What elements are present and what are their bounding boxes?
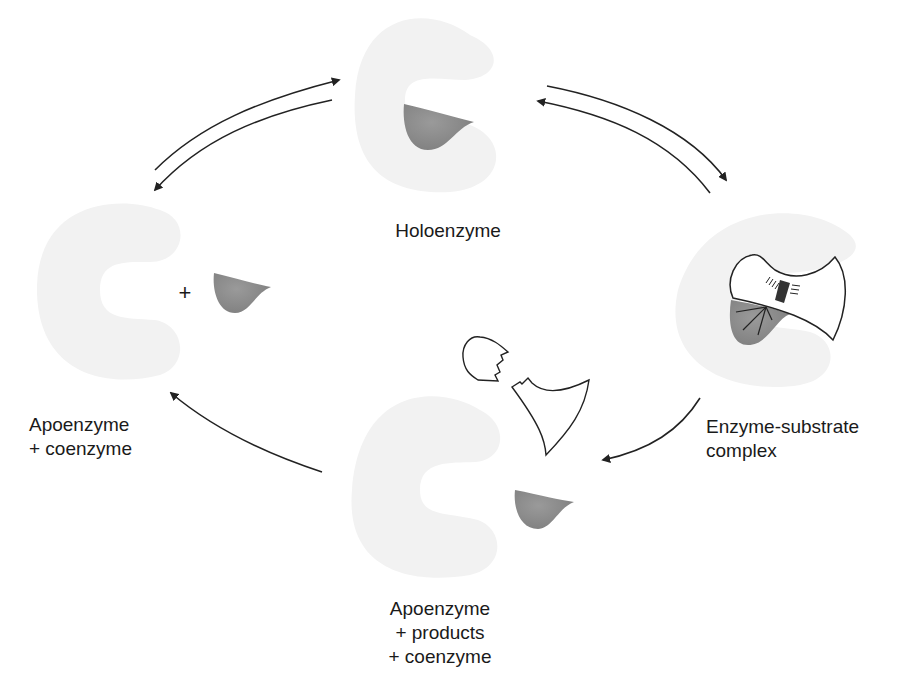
label-line: + coenzyme <box>29 437 132 461</box>
apoenzyme-c-shape <box>37 203 181 379</box>
apoenzyme-coenzyme-shape: + <box>37 203 271 379</box>
arrow-complex-to-products <box>603 398 700 460</box>
enzyme-substrate-complex-label: Enzyme-substrate complex <box>706 415 859 463</box>
apoenzyme-c-shape <box>355 18 497 192</box>
label-line: Holoenzyme <box>368 219 528 243</box>
label-line: + products <box>370 621 510 645</box>
holoenzyme-shape <box>355 18 497 192</box>
arrow-products-to-apo <box>171 393 322 472</box>
apoenzyme-products-coenzyme-label: Apoenzyme + products + coenzyme <box>370 597 510 669</box>
label-line: + coenzyme <box>370 645 510 669</box>
product-fragment-1 <box>463 337 508 381</box>
enzyme-substrate-complex-shape <box>675 213 855 387</box>
apoenzyme-coenzyme-label: Apoenzyme + coenzyme <box>29 413 132 461</box>
arrow-holo-to-apo <box>155 100 332 190</box>
coenzyme-shape <box>515 490 574 529</box>
apoenzyme-c-shape <box>351 396 500 577</box>
label-line: complex <box>706 439 859 463</box>
plus-sign: + <box>179 280 192 305</box>
product-fragment-2 <box>512 378 589 455</box>
holoenzyme-label: Holoenzyme <box>368 219 528 243</box>
arrow-complex-to-holo <box>538 101 710 193</box>
enzyme-cycle-diagram: + <box>0 0 919 700</box>
label-line: Apoenzyme <box>370 597 510 621</box>
apoenzyme-products-coenzyme-shape <box>351 337 589 578</box>
label-line: Apoenzyme <box>29 413 132 437</box>
coenzyme-shape <box>214 273 271 313</box>
label-line: Enzyme-substrate <box>706 415 859 439</box>
